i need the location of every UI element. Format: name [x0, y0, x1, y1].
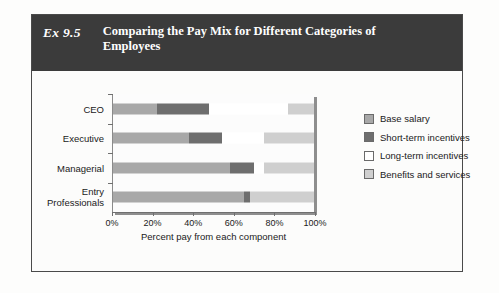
plot-frame: CEOExecutiveManagerialEntry Professional…	[112, 94, 314, 212]
legend-label: Short-term incentives	[380, 132, 470, 143]
legend-label: Long-term incentives	[380, 150, 468, 161]
bar-segment	[254, 162, 264, 173]
legend-label: Base salary	[380, 113, 430, 124]
x-axis-title: Percent pay from each component	[112, 231, 315, 242]
bar-row: Executive	[113, 124, 314, 154]
y-axis-label: Managerial	[57, 162, 104, 173]
x-axis-tick	[274, 212, 275, 216]
bar-segment	[264, 162, 314, 173]
y-axis-label: Executive	[63, 133, 104, 144]
exhibit-card: Ex 9.5 Comparing the Pay Mix for Differe…	[31, 14, 463, 272]
x-axis-tick-label: 0%	[105, 218, 118, 228]
bar-segment	[250, 192, 314, 203]
x-axis-tick	[153, 212, 154, 216]
exhibit-header: Ex 9.5 Comparing the Pay Mix for Differe…	[32, 15, 462, 71]
bar-row: Managerial	[113, 153, 314, 183]
x-axis-tick-label: 20%	[144, 218, 162, 228]
chart-area: CEOExecutiveManagerialEntry Professional…	[32, 71, 462, 273]
bar-segment	[113, 192, 244, 203]
bar-segment	[113, 162, 230, 173]
stacked-bar	[113, 133, 314, 144]
x-axis-tick-label: 40%	[184, 218, 202, 228]
legend-swatch	[364, 132, 374, 142]
legend-item: Base salary	[364, 113, 470, 124]
bar-segment	[209, 103, 287, 114]
legend-swatch	[364, 114, 374, 124]
y-axis-tick	[108, 183, 113, 184]
y-axis-tick	[108, 94, 113, 95]
legend-label: Benefits and services	[380, 169, 470, 180]
legend-item: Benefits and services	[364, 169, 470, 180]
x-axis-tick-label: 100%	[303, 218, 326, 228]
bar-segment	[189, 133, 221, 144]
legend-item: Short-term incentives	[364, 132, 470, 143]
legend-item: Long-term incentives	[364, 150, 470, 161]
bar-segment	[288, 103, 314, 114]
y-axis-tick	[108, 153, 113, 154]
y-axis-label: Entry Professionals	[47, 186, 104, 208]
y-axis-tick	[108, 124, 113, 125]
stacked-bar	[113, 192, 314, 203]
x-axis-tick-label: 60%	[225, 218, 243, 228]
bar-segment	[222, 133, 264, 144]
bar-segment	[113, 133, 189, 144]
stacked-bar	[113, 162, 314, 173]
legend-swatch	[364, 151, 374, 161]
bar-segment	[113, 103, 157, 114]
bar-segment	[230, 162, 254, 173]
stacked-bar	[113, 103, 314, 114]
exhibit-title: Comparing the Pay Mix for Different Cate…	[103, 24, 403, 54]
bar-row: Entry Professionals	[113, 183, 314, 213]
x-axis-tick-label: 80%	[265, 218, 283, 228]
x-axis-tick	[234, 212, 235, 216]
x-axis-tick	[315, 212, 316, 216]
chart-legend: Base salaryShort-term incentivesLong-ter…	[364, 113, 470, 187]
exhibit-number: Ex 9.5	[43, 24, 81, 41]
x-axis-tick	[112, 212, 113, 216]
legend-swatch	[364, 169, 374, 179]
bar-row: CEO	[113, 94, 314, 124]
x-axis-tick	[193, 212, 194, 216]
y-axis-label: CEO	[83, 103, 104, 114]
exhibit-page: Ex 9.5 Comparing the Pay Mix for Differe…	[0, 0, 499, 293]
x-axis: 0%20%40%60%80%100%	[112, 212, 315, 213]
bar-segment	[157, 103, 209, 114]
bar-rows: CEOExecutiveManagerialEntry Professional…	[113, 94, 314, 212]
bar-segment	[264, 133, 314, 144]
